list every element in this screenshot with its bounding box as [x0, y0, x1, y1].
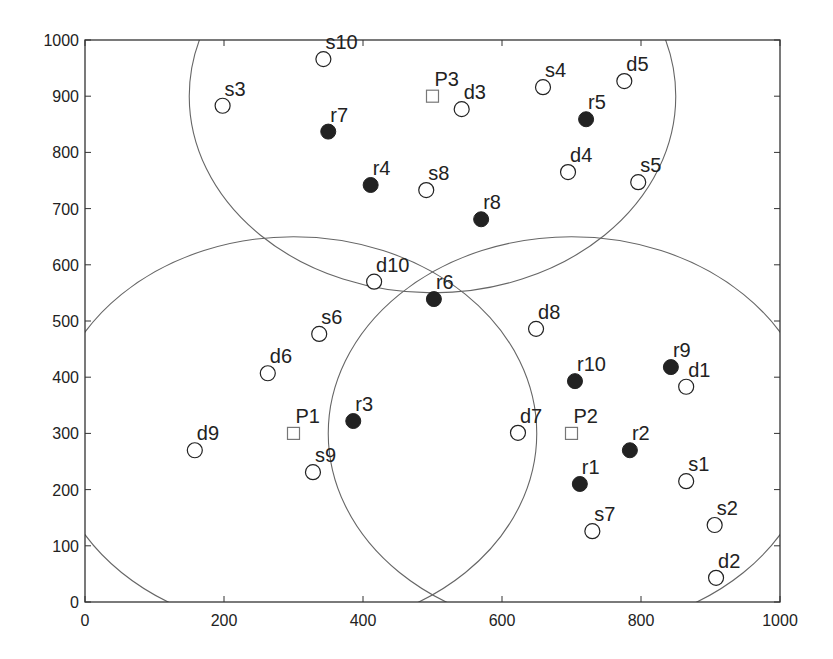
- source-marker: [316, 52, 331, 67]
- point-label: d7: [520, 405, 542, 427]
- source-marker: [585, 524, 600, 539]
- relay-marker: [474, 212, 489, 227]
- y-tick-label: 0: [70, 594, 79, 611]
- y-tick-label: 700: [52, 201, 79, 218]
- point-label: s3: [225, 78, 246, 100]
- point-label: s6: [321, 306, 342, 328]
- destination-marker: [617, 74, 632, 89]
- source-marker: [215, 98, 230, 113]
- relay-marker: [622, 443, 637, 458]
- destination-marker: [709, 570, 724, 585]
- point-label: d10: [376, 254, 409, 276]
- relay-marker: [321, 124, 336, 139]
- y-tick-label: 500: [52, 313, 79, 330]
- y-tick-label: 400: [52, 369, 79, 386]
- x-tick-label: 800: [628, 612, 655, 629]
- destination-marker: [679, 379, 694, 394]
- y-tick-label: 900: [52, 88, 79, 105]
- point-label: r8: [483, 191, 501, 213]
- source-marker: [707, 518, 722, 533]
- point-label: d1: [688, 359, 710, 381]
- y-tick-label: 800: [52, 144, 79, 161]
- point-label: r9: [673, 339, 691, 361]
- relay-marker: [572, 476, 587, 491]
- point-label: r7: [330, 104, 348, 126]
- source-marker: [536, 80, 551, 95]
- x-tick-label: 200: [211, 612, 238, 629]
- data-points: s1s2s3s4s5s6s7s8s9s10d1d2d3d4d5d6d7d8d9d…: [187, 31, 740, 585]
- destination-marker: [510, 425, 525, 440]
- destination-marker: [561, 165, 576, 180]
- y-tick-label: 100: [52, 538, 79, 555]
- y-tick-label: 300: [52, 425, 79, 442]
- point-label: s2: [717, 497, 738, 519]
- source-marker: [312, 326, 327, 341]
- access-point-marker: [288, 427, 300, 439]
- plot-area-frame: [85, 40, 780, 602]
- y-tick-label: 600: [52, 257, 79, 274]
- relay-marker: [426, 292, 441, 307]
- point-label: d9: [197, 422, 219, 444]
- point-label: r6: [436, 271, 454, 293]
- point-label: r10: [577, 353, 606, 375]
- point-label: P3: [435, 68, 459, 90]
- point-label: d6: [270, 345, 292, 367]
- x-tick-label: 600: [489, 612, 516, 629]
- source-marker: [305, 465, 320, 480]
- point-label: r5: [588, 91, 606, 113]
- axis-ticks: 0200400600800100001002003004005006007008…: [43, 32, 797, 629]
- y-tick-label: 1000: [43, 32, 79, 49]
- source-marker: [419, 183, 434, 198]
- point-label: r4: [373, 157, 391, 179]
- scatter-chart: 0200400600800100001002003004005006007008…: [0, 0, 833, 659]
- point-label: r3: [355, 393, 373, 415]
- point-label: s1: [688, 453, 709, 475]
- point-label: P2: [574, 405, 598, 427]
- point-label: s4: [545, 59, 566, 81]
- point-label: s7: [594, 503, 615, 525]
- destination-marker: [260, 366, 275, 381]
- relay-marker: [567, 374, 582, 389]
- point-label: s5: [640, 154, 661, 176]
- source-marker: [679, 474, 694, 489]
- point-label: r1: [582, 456, 600, 478]
- point-label: d2: [718, 550, 740, 572]
- y-tick-label: 200: [52, 482, 79, 499]
- point-label: d3: [464, 81, 486, 103]
- destination-marker: [454, 102, 469, 117]
- point-label: d8: [538, 301, 560, 323]
- point-label: r2: [632, 422, 650, 444]
- destination-marker: [187, 443, 202, 458]
- point-label: P1: [296, 405, 320, 427]
- destination-marker: [529, 321, 544, 336]
- point-label: d4: [570, 144, 592, 166]
- coverage-circle-p3: [189, 0, 676, 293]
- relay-marker: [663, 360, 678, 375]
- relay-marker: [363, 177, 378, 192]
- source-marker: [631, 175, 646, 190]
- x-tick-label: 1000: [762, 612, 798, 629]
- point-label: s8: [428, 162, 449, 184]
- x-tick-label: 400: [350, 612, 377, 629]
- point-label: s9: [315, 444, 336, 466]
- destination-marker: [367, 274, 382, 289]
- point-label: s10: [325, 31, 357, 53]
- relay-marker: [346, 414, 361, 429]
- point-label: d5: [626, 53, 648, 75]
- access-point-marker: [427, 90, 439, 102]
- access-point-marker: [566, 427, 578, 439]
- x-tick-label: 0: [81, 612, 90, 629]
- relay-marker: [579, 112, 594, 127]
